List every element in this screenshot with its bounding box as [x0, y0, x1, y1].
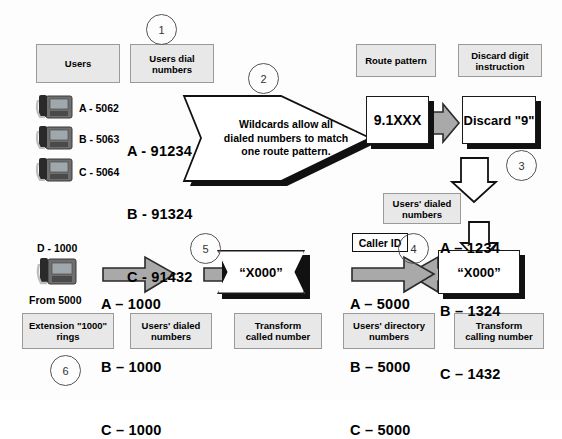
- arrow-route-to-discard: [430, 104, 459, 142]
- step-circle-4: 4: [398, 233, 429, 264]
- caller-id-numbers-list: A – 5000 B – 5000 C – 5000: [350, 252, 410, 439]
- step-circle-2: 2: [248, 63, 279, 94]
- after-discard-c: C – 1432: [440, 364, 500, 385]
- caller-id-b: B – 5000: [350, 357, 410, 378]
- discard-box: Discard "9": [462, 96, 536, 144]
- dialed-number-b: B - 91324: [127, 204, 192, 225]
- step-circle-1: 1: [146, 14, 177, 45]
- step-circle-5: 5: [190, 233, 221, 264]
- transformed-c: C – 1000: [101, 420, 161, 439]
- transformed-a: A – 1000: [101, 294, 161, 315]
- caller-id-c: C – 5000: [350, 420, 410, 439]
- transform-called-box: “X000”: [217, 250, 305, 294]
- ip-phone-icon: [33, 255, 81, 291]
- user-label-c: C - 5064: [79, 166, 119, 178]
- transformed-b: B – 1000: [101, 357, 161, 378]
- user-label-b: B - 5063: [79, 133, 119, 145]
- caller-id-a: A – 5000: [350, 294, 410, 315]
- step-circle-3: 3: [506, 150, 537, 181]
- ip-phone-icon: [33, 92, 77, 124]
- ip-phone-icon: [33, 155, 77, 187]
- route-pattern-box: 9.1XXX: [366, 96, 429, 144]
- ip-phone-icon: [33, 123, 77, 155]
- dialed-number-a: A - 91234: [127, 141, 192, 162]
- destination-from-label: From 5000: [29, 294, 82, 306]
- banner-text: Wildcards allow all dialed numbers to ma…: [211, 118, 361, 159]
- destination-extension-label: D - 1000: [37, 242, 77, 254]
- step-circle-6: 6: [50, 355, 81, 386]
- transformed-called-list: A – 1000 B – 1000 C – 1000: [101, 252, 161, 439]
- after-discard-b: B – 1324: [440, 301, 500, 322]
- after-discard-list: A – 1234 B – 1324 C – 1432: [440, 196, 500, 427]
- user-label-a: A - 5062: [79, 102, 119, 114]
- after-discard-a: A – 1234: [440, 238, 500, 259]
